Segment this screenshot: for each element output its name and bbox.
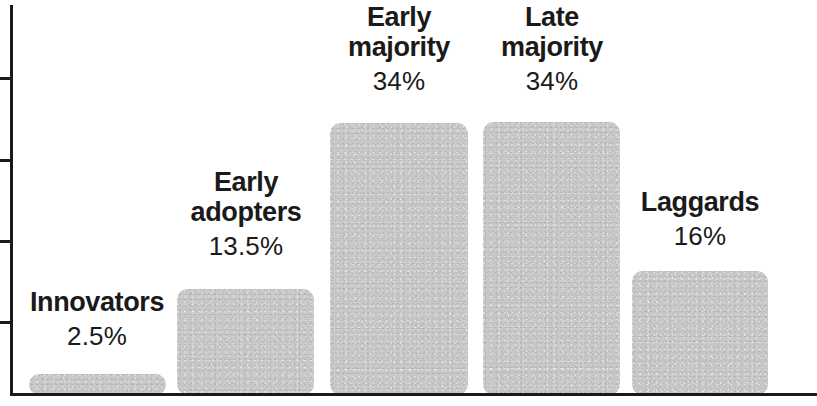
bar-label-value: 2.5% [12, 322, 182, 351]
bar-label-innovators: Innovators 2.5% [12, 287, 182, 351]
bar-label-laggards: Laggards 16% [614, 187, 786, 251]
bar-early-adopters [177, 289, 314, 395]
adoption-curve-bar-chart: Innovators 2.5% Early adopters 13.5% Ear… [0, 0, 817, 406]
bar-label-name: Early majority [313, 2, 485, 62]
y-axis-tick [0, 240, 13, 243]
bar-label-value: 34% [466, 67, 638, 96]
x-axis-line [10, 393, 817, 396]
bar-late-majority [483, 122, 620, 395]
bar-label-name: Laggards [614, 187, 786, 217]
bar-laggards [632, 271, 768, 395]
y-axis-line [10, 5, 13, 396]
bar-label-value: 34% [313, 67, 485, 96]
bar-early-majority [330, 123, 468, 395]
y-axis-tick [0, 159, 13, 162]
bar-label-name: Late majority [466, 2, 638, 62]
bar-label-value: 16% [614, 222, 786, 251]
plot-area: Innovators 2.5% Early adopters 13.5% Ear… [0, 0, 817, 406]
bar-label-early-majority: Early majority 34% [313, 2, 485, 97]
y-axis-tick [0, 321, 13, 324]
bar-label-name: Innovators [12, 287, 182, 317]
bar-innovators [29, 374, 166, 395]
bar-label-value: 13.5% [160, 232, 332, 261]
bar-label-name: Early adopters [160, 167, 332, 227]
bar-label-early-adopters: Early adopters 13.5% [160, 167, 332, 262]
y-axis-tick [0, 77, 13, 80]
bar-label-late-majority: Late majority 34% [466, 2, 638, 97]
